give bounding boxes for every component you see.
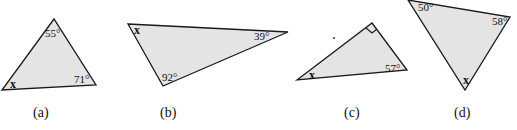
triangle-a-caption: (a) [33, 105, 49, 121]
stray-dot [333, 37, 335, 39]
triangle-angles-figure: 55° 71° x (a) x 39° 92° (b) x 57° (c) 50… [0, 0, 517, 130]
triangle-d-angle-right: 58° [492, 15, 507, 27]
triangle-b: x 39° 92° (b) [128, 23, 288, 121]
triangle-c: x 57° (c) [297, 23, 407, 121]
triangle-d: 50° 58° x (d) [408, 0, 510, 121]
triangle-b-angle-right: 39° [254, 30, 269, 42]
triangle-a-angle-bottom-left: x [10, 77, 16, 91]
triangle-a-angle-bottom-right: 71° [74, 73, 89, 85]
triangle-d-caption: (d) [454, 105, 471, 121]
triangle-c-angle-right: 57° [385, 62, 400, 74]
triangle-a: 55° 71° x (a) [2, 19, 96, 121]
triangle-c-angle-left: x [309, 68, 315, 82]
triangle-b-caption: (b) [160, 105, 177, 121]
triangle-b-angle-top-left: x [134, 23, 140, 37]
triangle-d-shape [408, 0, 510, 90]
triangle-b-angle-bottom: 92° [162, 71, 177, 83]
triangle-d-angle-top-left: 50° [418, 1, 433, 13]
triangle-a-angle-top: 55° [45, 27, 60, 39]
triangle-c-caption: (c) [344, 105, 360, 121]
triangle-d-angle-bottom: x [463, 73, 469, 87]
